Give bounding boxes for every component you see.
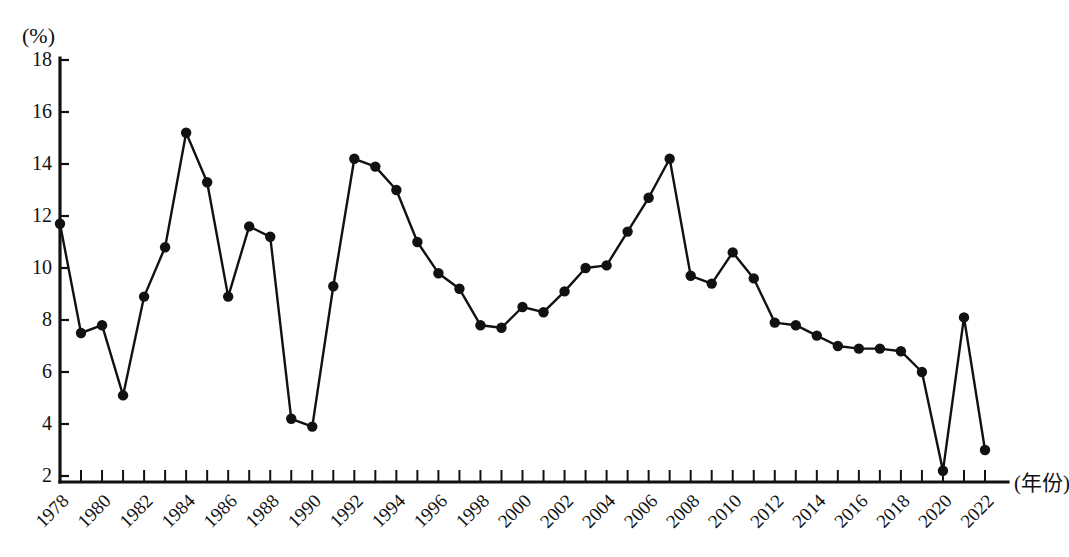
x-tick-label: 2010 — [704, 490, 746, 532]
data-point-marker — [854, 343, 864, 353]
data-point-marker — [286, 414, 296, 424]
y-tick-label: 2 — [42, 464, 52, 486]
data-point-marker — [118, 390, 128, 400]
x-tick-label: 1992 — [325, 490, 367, 532]
x-tick-label: 1988 — [241, 490, 283, 532]
data-point-marker — [896, 346, 906, 356]
y-tick-label: 8 — [42, 308, 52, 330]
x-axis-caption-group: (年份) — [1014, 471, 1069, 495]
data-point-marker — [202, 177, 212, 187]
line-chart: (%) 24681012141618 197819801982198419861… — [0, 0, 1069, 557]
data-point-marker — [938, 466, 948, 476]
data-point-marker — [328, 281, 338, 291]
y-tick-label: 10 — [32, 256, 52, 278]
data-point-marker — [980, 445, 990, 455]
x-tick-label: 1998 — [452, 490, 494, 532]
y-tick-label: 16 — [32, 100, 52, 122]
x-tick-label: 1978 — [31, 490, 73, 532]
data-point-marker — [749, 273, 759, 283]
y-tick-label: 12 — [32, 204, 52, 226]
x-tick-label: 1986 — [199, 490, 241, 532]
y-axis-unit-group: (%) — [22, 23, 55, 48]
x-tick-label: 2014 — [788, 490, 830, 532]
data-point-marker — [538, 307, 548, 317]
x-axis-caption-label: (年份) — [1014, 471, 1069, 495]
x-tick-label: 1982 — [115, 490, 157, 532]
data-point-marker — [496, 323, 506, 333]
x-tick-label: 2002 — [536, 490, 578, 532]
data-point-marker — [265, 232, 275, 242]
data-point-marker — [97, 320, 107, 330]
data-series-group — [55, 128, 990, 476]
data-point-marker — [833, 341, 843, 351]
x-tick-label: 1980 — [73, 490, 115, 532]
x-tick-label: 2020 — [914, 490, 956, 532]
series-polyline — [60, 133, 985, 471]
data-point-marker — [370, 161, 380, 171]
data-point-marker — [685, 271, 695, 281]
x-tick-label: 2008 — [662, 490, 704, 532]
y-axis-unit-label: (%) — [22, 23, 55, 48]
data-point-marker — [517, 302, 527, 312]
x-tick-group — [60, 470, 985, 482]
axes-group — [60, 58, 1008, 482]
x-tick-label: 2012 — [746, 490, 788, 532]
data-point-marker — [412, 237, 422, 247]
y-tick-label: 14 — [32, 152, 52, 174]
data-point-marker — [139, 291, 149, 301]
data-point-marker — [181, 128, 191, 138]
data-point-marker — [601, 260, 611, 270]
data-point-marker — [728, 247, 738, 257]
data-point-marker — [433, 268, 443, 278]
x-tick-label: 1984 — [157, 490, 199, 532]
chart-page: (%) 24681012141618 197819801982198419861… — [0, 0, 1069, 557]
y-tick-label: 4 — [42, 412, 52, 434]
data-point-marker — [223, 291, 233, 301]
x-tick-label: 2000 — [494, 490, 536, 532]
data-point-marker — [664, 154, 674, 164]
x-tick-label: 2006 — [620, 490, 662, 532]
x-tick-label-group: 1978198019821984198619881990199219941996… — [31, 490, 998, 532]
data-point-marker — [559, 286, 569, 296]
y-tick-group: 24681012141618 — [32, 48, 69, 486]
y-tick-label: 6 — [42, 360, 52, 382]
data-point-marker — [643, 193, 653, 203]
data-point-marker — [475, 320, 485, 330]
data-point-marker — [959, 312, 969, 322]
data-point-marker — [307, 421, 317, 431]
data-point-marker — [875, 343, 885, 353]
x-tick-label: 2018 — [872, 490, 914, 532]
series-markers-group — [55, 128, 990, 476]
data-point-marker — [770, 317, 780, 327]
data-point-marker — [160, 242, 170, 252]
data-point-marker — [622, 226, 632, 236]
data-point-marker — [917, 367, 927, 377]
data-point-marker — [391, 185, 401, 195]
x-tick-label: 2016 — [830, 490, 872, 532]
data-point-marker — [244, 221, 254, 231]
x-tick-label: 1994 — [367, 490, 409, 532]
x-tick-label: 1996 — [410, 490, 452, 532]
data-point-marker — [580, 263, 590, 273]
data-point-marker — [791, 320, 801, 330]
data-point-marker — [349, 154, 359, 164]
data-point-marker — [76, 328, 86, 338]
data-point-marker — [55, 219, 65, 229]
data-point-marker — [707, 278, 717, 288]
data-point-marker — [454, 284, 464, 294]
x-tick-label: 2004 — [578, 490, 620, 532]
x-tick-label: 2022 — [956, 490, 998, 532]
y-tick-label: 18 — [32, 48, 52, 70]
data-point-marker — [812, 330, 822, 340]
x-tick-label: 1990 — [283, 490, 325, 532]
